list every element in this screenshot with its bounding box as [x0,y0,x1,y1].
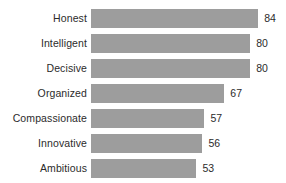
bar-fill [91,34,250,53]
bar [91,9,258,28]
bar-row: Compassionate57 [0,109,286,128]
bar [91,34,250,53]
bar-fill [91,109,204,128]
bar-row: Organized67 [0,84,286,103]
category-label: Compassionate [0,109,87,128]
bar-row: Intelligent80 [0,34,286,53]
bar-row: Decisive80 [0,59,286,78]
bar [91,59,250,78]
category-label: Ambitious [0,159,87,178]
category-label: Honest [0,9,87,28]
bar-fill [91,134,202,153]
bar-chart: Honest84Intelligent80Decisive80Organized… [0,0,286,183]
bar-row: Innovative56 [0,134,286,153]
category-label: Innovative [0,134,87,153]
value-label: 56 [208,134,220,153]
value-label: 67 [230,84,242,103]
value-label: 53 [202,159,214,178]
value-label: 80 [256,59,268,78]
value-label: 80 [256,34,268,53]
bar [91,84,224,103]
plot-area: Honest84Intelligent80Decisive80Organized… [0,0,286,183]
bar [91,134,202,153]
bar-row: Honest84 [0,9,286,28]
bar [91,109,204,128]
value-label: 57 [210,109,222,128]
bar-fill [91,159,196,178]
bar [91,159,196,178]
bar-fill [91,84,224,103]
bar-fill [91,9,258,28]
bar-row: Ambitious53 [0,159,286,178]
category-label: Organized [0,84,87,103]
category-label: Decisive [0,59,87,78]
value-label: 84 [264,9,276,28]
category-label: Intelligent [0,34,87,53]
bar-fill [91,59,250,78]
